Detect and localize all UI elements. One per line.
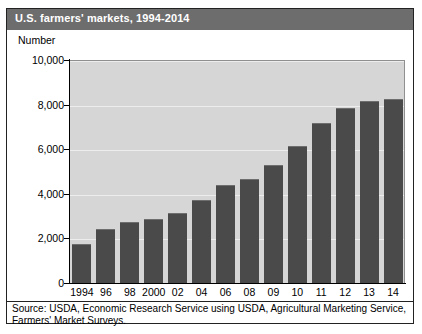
x-axis-tick-label: 14	[387, 286, 399, 298]
bar	[360, 101, 379, 283]
y-axis-tick-label: 6,000	[12, 143, 64, 155]
bar	[72, 244, 91, 283]
y-axis-labels: 02,0004,0006,0008,00010,000	[7, 9, 64, 325]
bar	[192, 200, 211, 283]
bar	[336, 108, 355, 283]
source-divider	[7, 301, 413, 302]
x-axis-tick-label: 11	[316, 286, 327, 298]
y-axis-tick-label: 4,000	[12, 188, 64, 200]
bar	[312, 123, 331, 283]
x-axis-tick-label: 2000	[142, 286, 165, 298]
bar	[216, 185, 235, 283]
bar	[240, 179, 259, 283]
bar	[288, 146, 307, 283]
x-axis-tick-label: 04	[196, 286, 208, 298]
y-axis-tick	[64, 105, 69, 106]
x-axis-tick-label: 98	[124, 286, 136, 298]
y-axis-tick-label: 2,000	[12, 232, 64, 244]
y-axis-tick	[64, 149, 69, 150]
chart-figure: U.S. farmers' markets, 1994-2014 Number …	[6, 8, 414, 324]
y-axis-tick	[64, 60, 69, 61]
x-axis-tick-label: 10	[291, 286, 303, 298]
y-axis-tick	[64, 238, 69, 239]
source-note-line-1: Source: USDA, Economic Research Service …	[12, 303, 409, 315]
x-axis-line	[69, 283, 406, 284]
bar	[384, 99, 403, 283]
chart-title-bar: U.S. farmers' markets, 1994-2014	[7, 9, 413, 30]
bar	[144, 219, 163, 283]
y-axis-tick-label: 8,000	[12, 99, 64, 111]
y-axis-tick-label: 10,000	[12, 54, 64, 66]
x-axis-tick-label: 02	[172, 286, 184, 298]
gridline	[70, 106, 404, 107]
y-axis-tick	[64, 283, 69, 284]
x-axis-tick-label: 12	[339, 286, 351, 298]
source-note-line-2: Farmers' Market Surveys.	[12, 315, 409, 327]
x-axis-tick-label: 13	[363, 286, 375, 298]
source-note: Source: USDA, Economic Research Service …	[12, 303, 409, 326]
x-axis-tick-label: 08	[244, 286, 256, 298]
x-axis-tick-label: 06	[220, 286, 232, 298]
x-axis-tick-label: 96	[100, 286, 112, 298]
x-axis-tick-label: 1994	[70, 286, 93, 298]
bar	[120, 222, 139, 283]
bar	[168, 213, 187, 283]
y-axis-tick	[64, 194, 69, 195]
plot-area	[70, 60, 405, 283]
y-axis-tick-label: 0	[12, 277, 64, 289]
bar	[264, 165, 283, 283]
x-axis-tick-label: 09	[268, 286, 280, 298]
bar	[96, 229, 115, 283]
gridline	[70, 61, 404, 62]
